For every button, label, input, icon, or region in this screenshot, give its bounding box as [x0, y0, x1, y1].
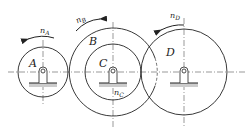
gear-c-label: C [99, 57, 108, 70]
rotation-arrow-a: nA [28, 26, 54, 39]
support-a [29, 67, 57, 87]
gear-d-label: D [165, 46, 175, 59]
svg-text:nD: nD [170, 11, 180, 21]
rotation-arrow-b: nB [74, 13, 100, 31]
gear-b-label: B [88, 35, 97, 48]
support-d [170, 67, 198, 87]
svg-text:nA: nA [40, 26, 50, 36]
svg-text:nB: nB [74, 13, 87, 26]
rotation-arrow-d: nD [161, 11, 184, 30]
support-c [99, 67, 127, 87]
svg-text:nC: nC [114, 88, 124, 98]
speed-label-c: nC [114, 88, 124, 98]
gear-train-diagram: A B C D nA nB [0, 0, 251, 138]
gear-a-label: A [28, 57, 37, 70]
